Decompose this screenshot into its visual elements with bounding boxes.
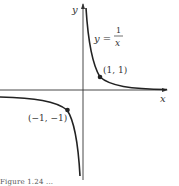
reciprocal-function-figure: y x y = 1 x (1, 1) (−1, −1) Figure 1.24 … [0,0,179,186]
function-numerator: 1 [116,26,121,35]
function-lhs: y = [93,33,111,44]
point-1-1 [98,75,103,80]
figure-caption: Figure 1.24 ... [0,178,179,186]
point-label-1-1: (1, 1) [103,65,127,75]
point-neg1-neg1 [65,108,70,113]
plot: y x y = 1 x (1, 1) (−1, −1) [0,0,179,186]
function-denominator: x [115,38,120,48]
x-axis-label: x [160,93,166,104]
y-axis-arrow-icon [81,3,85,9]
y-axis-label: y [71,4,78,15]
point-label-neg1-neg1: (−1, −1) [28,113,67,123]
